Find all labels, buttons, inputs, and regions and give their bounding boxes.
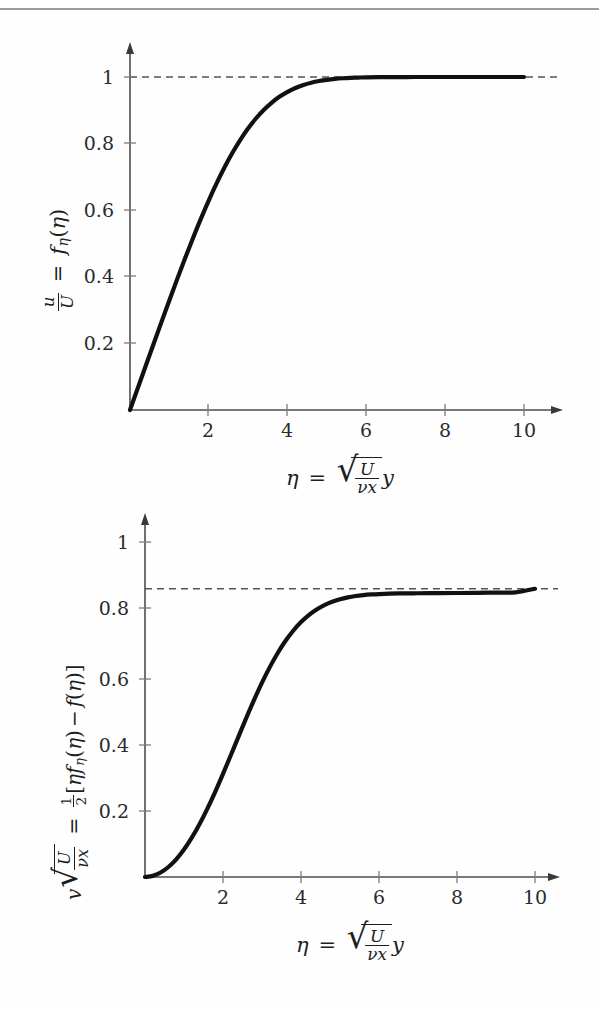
x-tick-label: 10 — [523, 886, 547, 908]
argument-eta: η — [62, 738, 86, 750]
x-axis-arrow-u — [551, 406, 563, 414]
v-symbol: v — [62, 889, 86, 900]
y-symbol: y — [382, 466, 394, 490]
eta-symbol: η — [296, 933, 309, 957]
fraction-u-over-U: u U — [40, 292, 76, 312]
eta-symbol: η — [62, 774, 86, 786]
y-tick-label: 0.4 — [99, 734, 129, 756]
chart-velocity-profile-u: 0.2 0.4 0.6 0.8 1 2 4 6 8 10 u U = fη(η)… — [0, 20, 599, 500]
x-tick-label: 2 — [202, 419, 214, 441]
x-tick-label: 8 — [451, 886, 463, 908]
bracket-close: ] — [62, 664, 86, 672]
y-tick-label: 0.8 — [84, 132, 114, 154]
y-tick-label: 1 — [102, 66, 114, 88]
fraction-denominator: U — [59, 293, 77, 311]
nu-symbol: ν — [357, 477, 367, 497]
x-tick-label: 8 — [439, 419, 451, 441]
function-f: f — [62, 767, 86, 774]
square-root: √ U νx — [54, 844, 92, 888]
y-tick-label: 0.6 — [84, 199, 114, 221]
argument-eta-second: η — [62, 680, 86, 692]
y-axis-label-v: v √ U νx = 1 2 [ηfη(η)−f(η)] — [54, 664, 92, 900]
y-tick-label: 1 — [117, 531, 129, 553]
x-axis-label-u: η = √ U νx y — [286, 457, 394, 497]
chart-u-svg: 0.2 0.4 0.6 0.8 1 2 4 6 8 10 — [0, 20, 599, 500]
fraction-numerator: u — [40, 293, 59, 311]
fraction-denominator: νx — [355, 479, 379, 497]
bracket-open: [ — [62, 786, 86, 794]
x-tick-label: 4 — [295, 886, 307, 908]
fraction-denominator: νx — [365, 946, 389, 964]
y-tick-label: 0.2 — [84, 332, 114, 354]
x-tick-label: 6 — [373, 886, 385, 908]
argument-eta: η — [46, 217, 70, 230]
equals-sign: = — [46, 262, 70, 286]
square-root: √ U νx — [337, 457, 382, 497]
equals-sign: = — [305, 466, 329, 490]
x-tick-label: 10 — [512, 419, 536, 441]
square-root: √ U νx — [347, 924, 392, 964]
equals-sign: = — [315, 933, 339, 957]
y-axis-label-u: u U = fη(η) — [40, 209, 76, 312]
y-symbol: y — [392, 933, 404, 957]
y-tick-label: 0.2 — [99, 800, 129, 822]
eta-symbol: η — [286, 466, 299, 490]
x-symbol: x — [73, 849, 92, 858]
data-curve-v — [145, 589, 535, 877]
paren-close: ) — [46, 209, 70, 217]
minus-sign: − — [62, 707, 86, 730]
function-f-second: f — [62, 700, 86, 707]
radical-sign: √ — [337, 455, 359, 485]
paren-open: ( — [62, 692, 86, 700]
y-tick-label: 0.8 — [99, 597, 129, 619]
fraction-numerator: 1 — [59, 795, 74, 808]
x-tick-label: 4 — [281, 419, 293, 441]
x-symbol: x — [368, 477, 377, 497]
function-f: f — [46, 247, 70, 255]
nu-symbol: ν — [367, 944, 377, 964]
y-tick-label: 0.4 — [84, 265, 114, 287]
figure-page: 0.2 0.4 0.6 0.8 1 2 4 6 8 10 u U = fη(η)… — [0, 0, 599, 1010]
radical-sign: √ — [347, 922, 369, 952]
y-tick-label: 0.6 — [99, 668, 129, 690]
x-axis-arrow-v — [548, 873, 560, 881]
paren-open: ( — [46, 230, 70, 238]
paren-open: ( — [62, 750, 86, 758]
radical-sign: √ — [52, 867, 81, 888]
x-symbol: x — [378, 944, 387, 964]
equals-sign: = — [62, 815, 86, 838]
y-axis-arrow-v — [141, 513, 149, 525]
fraction-denominator: 2 — [74, 795, 88, 808]
subscript-eta: η — [72, 758, 87, 767]
y-axis-arrow-u — [126, 42, 134, 54]
chart-velocity-profile-v: 0.2 0.4 0.6 0.8 1 2 4 6 8 10 v √ U νx — [0, 500, 599, 1000]
subscript-eta: η — [55, 238, 71, 247]
paren-close: ) — [62, 672, 86, 680]
x-tick-label: 6 — [360, 419, 372, 441]
x-tick-label: 2 — [217, 886, 229, 908]
fraction-one-half: 1 2 — [59, 794, 89, 809]
top-horizontal-rule — [0, 8, 599, 10]
x-axis-label-v: η = √ U νx y — [296, 924, 404, 964]
paren-close: ) — [62, 730, 86, 738]
data-curve-u — [130, 77, 524, 410]
